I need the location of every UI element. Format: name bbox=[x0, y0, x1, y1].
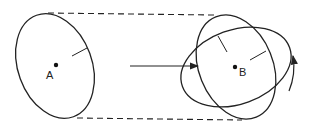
cylinder-projection-diagram: A B bbox=[0, 0, 310, 130]
radius-tick-b2 bbox=[250, 51, 266, 60]
radius-tick-b1 bbox=[218, 36, 227, 52]
label-b: B bbox=[239, 66, 246, 78]
bottom-dashed-line bbox=[77, 118, 242, 120]
ellipse-a: A bbox=[2, 3, 108, 130]
center-point-b bbox=[233, 65, 237, 69]
top-dashed-line bbox=[48, 13, 214, 15]
rotation-arrow-icon bbox=[289, 56, 294, 91]
label-a: A bbox=[46, 69, 54, 81]
center-point-a bbox=[54, 63, 58, 67]
radius-tick-a bbox=[72, 48, 87, 56]
